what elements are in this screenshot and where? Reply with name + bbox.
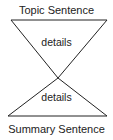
upper-details-label: details: [0, 36, 113, 48]
summary-sentence-label: Summary Sentence: [0, 123, 113, 135]
topic-sentence-label: Topic Sentence: [0, 4, 113, 16]
hourglass-diagram: Topic Sentence details details Summary S…: [0, 0, 113, 140]
hourglass-shape: [0, 0, 113, 140]
inverted-triangle: [11, 20, 107, 78]
lower-details-label: details: [0, 91, 113, 103]
